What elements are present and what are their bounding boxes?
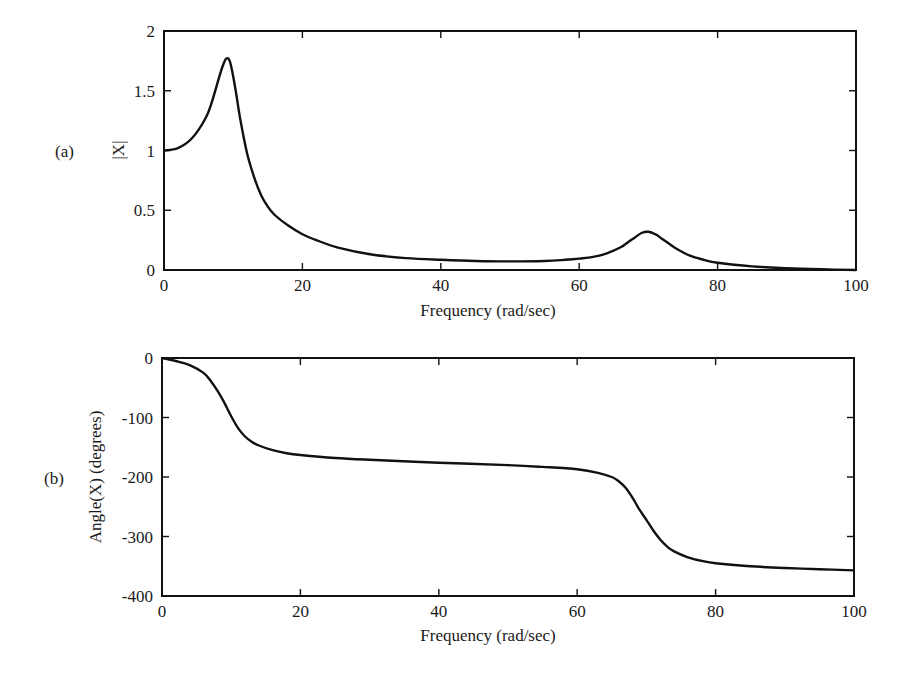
y-axis-title-magnitude: |X| xyxy=(109,140,128,159)
x-tick-label: 80 xyxy=(707,602,724,621)
panel-label-b: (b) xyxy=(44,469,64,488)
x-tick-label: 40 xyxy=(432,276,449,295)
y-tick-label: -300 xyxy=(122,528,153,547)
x-tick-label: 100 xyxy=(843,276,869,295)
plot-frame-phase xyxy=(162,358,854,596)
y-tick-label: 1 xyxy=(147,142,156,161)
y-tick-label: 0 xyxy=(147,261,156,280)
axis-ticks-magnitude: 02040608010000.511.52 xyxy=(134,22,869,295)
x-axis-title-magnitude: Frequency (rad/sec) xyxy=(420,301,555,320)
plot-frame-magnitude xyxy=(164,31,856,270)
x-tick-label: 20 xyxy=(294,276,311,295)
phase-plot: (b) Angle(X) (degrees) Frequency (rad/se… xyxy=(44,349,867,645)
x-axis-title-phase: Frequency (rad/sec) xyxy=(420,626,555,645)
panel-label-a: (a) xyxy=(55,142,74,161)
magnitude-plot: (a) |X| Frequency (rad/sec) 020406080100… xyxy=(55,22,869,320)
figure: (a) |X| Frequency (rad/sec) 020406080100… xyxy=(0,0,905,681)
x-tick-label: 60 xyxy=(569,602,586,621)
x-tick-label: 80 xyxy=(709,276,726,295)
y-axis-title-phase: Angle(X) (degrees) xyxy=(86,411,105,544)
y-tick-label: -200 xyxy=(122,468,153,487)
y-tick-label: 2 xyxy=(147,22,156,41)
phase-curve xyxy=(162,358,854,570)
x-tick-label: 100 xyxy=(841,602,867,621)
x-tick-label: 0 xyxy=(158,602,167,621)
axis-ticks-phase: 0204060801000-100-200-300-400 xyxy=(122,349,867,621)
x-tick-label: 40 xyxy=(430,602,447,621)
x-tick-label: 0 xyxy=(160,276,169,295)
magnitude-curve xyxy=(164,58,856,270)
x-tick-label: 60 xyxy=(571,276,588,295)
x-tick-label: 20 xyxy=(292,602,309,621)
y-tick-label: -100 xyxy=(122,409,153,428)
y-tick-label: 0.5 xyxy=(134,201,155,220)
y-tick-label: 1.5 xyxy=(134,82,155,101)
y-tick-label: 0 xyxy=(145,349,154,368)
y-tick-label: -400 xyxy=(122,587,153,606)
